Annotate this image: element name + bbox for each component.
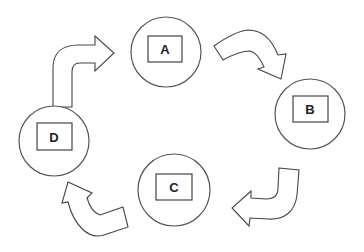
node-a-label: A bbox=[160, 42, 170, 57]
node-b-label: B bbox=[305, 102, 314, 117]
node-a: A bbox=[131, 17, 201, 87]
node-d-label: D bbox=[49, 130, 58, 145]
node-b: B bbox=[275, 79, 345, 149]
arrow-a-to-b-icon bbox=[214, 30, 286, 79]
arrow-c-to-d-icon bbox=[62, 182, 128, 236]
node-c-label: C bbox=[169, 180, 179, 195]
node-c: C bbox=[138, 154, 210, 226]
node-d: D bbox=[19, 106, 89, 176]
arrow-d-to-a-icon bbox=[53, 36, 114, 107]
cycle-diagram: A B C D bbox=[0, 0, 364, 252]
arrow-b-to-c-icon bbox=[232, 168, 299, 226]
